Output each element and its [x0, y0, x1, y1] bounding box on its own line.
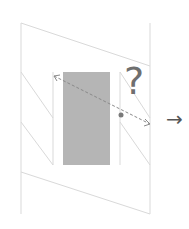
gray-rectangle	[63, 72, 110, 165]
arrowhead-right-icon	[144, 119, 150, 126]
bottom-diagonal	[21, 172, 150, 214]
diagram-canvas	[0, 0, 189, 229]
left-zigzag-lower	[21, 122, 53, 165]
pivot-dot	[119, 113, 124, 118]
question-mark-icon: ?	[124, 62, 144, 100]
right-zigzag-lower	[120, 122, 150, 165]
left-zigzag-upper	[21, 72, 53, 118]
right-arrow-icon: →	[166, 109, 183, 129]
